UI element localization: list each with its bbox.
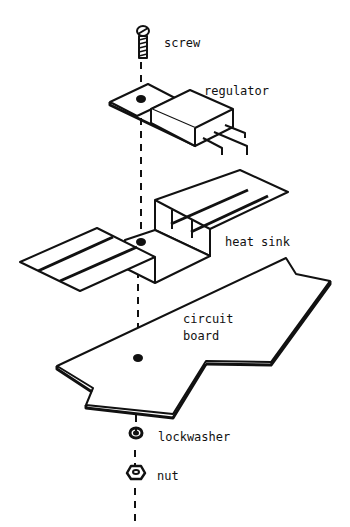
label-circuit-board-line2: board	[183, 329, 219, 343]
label-regulator: regulator	[204, 84, 269, 98]
label-heat-sink: heat sink	[225, 235, 290, 249]
screw-icon	[137, 26, 149, 58]
nut-icon	[127, 466, 145, 479]
label-lockwasher: lockwasher	[158, 430, 230, 444]
heat-sink-icon	[20, 170, 288, 291]
label-screw: screw	[164, 36, 200, 50]
label-nut: nut	[157, 469, 179, 483]
assembly-diagram	[0, 0, 350, 527]
assembly-axis	[135, 62, 141, 527]
label-circuit-board-line1: circuit	[183, 312, 234, 326]
